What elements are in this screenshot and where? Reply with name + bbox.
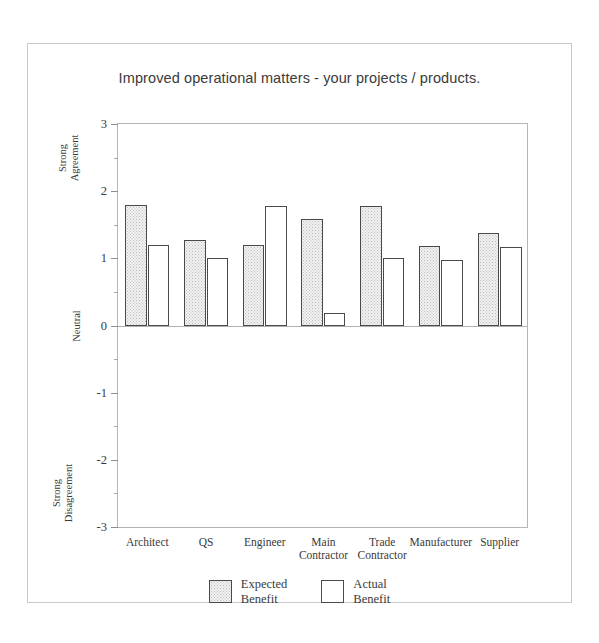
bar-expected-benefit[interactable] (360, 206, 382, 326)
bar-actual-benefit[interactable] (441, 260, 463, 326)
bar-group: TradeContractor (353, 124, 412, 527)
bar-expected-benefit[interactable] (478, 233, 500, 325)
bar-group: Manufacturer (412, 124, 471, 527)
y-axis-tick-label: 3 (101, 117, 107, 132)
legend-swatch-expected (209, 580, 232, 603)
y-axis-tick (111, 527, 118, 528)
y-axis-tick (111, 460, 118, 461)
bar-expected-benefit[interactable] (301, 219, 323, 325)
y-axis-tick (111, 326, 118, 327)
chart-title: Improved operational matters - your proj… (28, 70, 571, 86)
bar-expected-benefit[interactable] (125, 205, 147, 326)
bar-actual-benefit[interactable] (265, 206, 287, 326)
y-axis-tick (111, 393, 118, 394)
bar-expected-benefit[interactable] (243, 245, 265, 326)
bar-group: MainContractor (294, 124, 353, 527)
bar-actual-benefit[interactable] (500, 247, 522, 326)
y-axis-tick-label: -3 (97, 520, 107, 535)
x-axis-category-label: Supplier (457, 536, 543, 549)
y-axis-scale-label: Neutral (70, 310, 82, 342)
bar-group: Architect (118, 124, 177, 527)
y-axis-scale-label: StrongAgreement (57, 134, 81, 181)
y-axis-tick-label: 0 (101, 318, 107, 333)
y-axis-tick-label: 1 (101, 251, 107, 266)
bar-actual-benefit[interactable] (148, 245, 170, 326)
plot-area: 3210-1-2-3 StrongAgreementNeutralStrongD… (117, 123, 528, 528)
y-axis-scale-label: StrongDisagreement (51, 464, 75, 522)
chart-legend: ExpectedBenefitActualBenefit (28, 577, 571, 607)
bar-group: Supplier (470, 124, 529, 527)
bar-expected-benefit[interactable] (419, 246, 441, 326)
y-axis-tick-label: 2 (101, 184, 107, 199)
y-axis-tick (111, 124, 118, 125)
bar-expected-benefit[interactable] (184, 240, 206, 326)
y-axis-tick (111, 191, 118, 192)
y-axis-tick (111, 258, 118, 259)
legend-item[interactable]: ExpectedBenefit (209, 577, 288, 607)
bar-actual-benefit[interactable] (207, 258, 229, 325)
figure-frame: Improved operational matters - your proj… (27, 43, 572, 603)
y-axis-tick-label: -1 (97, 385, 107, 400)
legend-label: ExpectedBenefit (241, 577, 288, 607)
legend-swatch-actual (321, 580, 344, 603)
bar-actual-benefit[interactable] (324, 313, 346, 325)
legend-label: ActualBenefit (353, 577, 390, 607)
legend-item[interactable]: ActualBenefit (321, 577, 390, 607)
y-axis-tick-label: -2 (97, 452, 107, 467)
bar-group: QS (177, 124, 236, 527)
bar-actual-benefit[interactable] (383, 258, 405, 325)
bar-group: Engineer (235, 124, 294, 527)
